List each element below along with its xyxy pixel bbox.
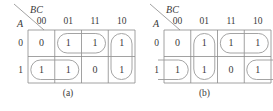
kmap-a-col-header-00: 00	[28, 15, 55, 27]
kmap-a-cell-r1c2: 0	[82, 57, 109, 84]
kmap-a-cell-r0c2: 1	[82, 30, 109, 57]
kmap-b-cell-r0c1: 1	[191, 30, 218, 57]
kmap-a-col-header-01: 01	[55, 15, 82, 27]
kmap-b-row-header-0: 0	[150, 30, 163, 56]
kmap-a-bc-label: BC	[30, 4, 43, 15]
kmap-b-cell-r1c1: 1	[191, 57, 218, 84]
karnaugh-map-figure: BC A 00 01 11 10 0 1 0 1	[0, 0, 273, 111]
kmap-b-cell-r0c0: 0	[164, 30, 191, 57]
kmap-a-col-header-11: 11	[82, 15, 109, 27]
kmap-b-cell-r0c2: 1	[218, 30, 245, 57]
kmap-a-row-header-0: 0	[14, 30, 27, 56]
kmap-b-bc-label: BC	[166, 4, 179, 15]
kmap-b-cell-r1c2: 0	[218, 57, 245, 84]
kmap-b-grid: 0 1 1 1 1 1 0 1	[164, 30, 271, 83]
kmap-b-a-label: A	[153, 18, 159, 29]
kmap-a: BC A 00 01 11 10 0 1 0 1	[0, 0, 136, 111]
kmap-b-caption: (b)	[136, 88, 273, 98]
kmap-b-row-header-1: 1	[150, 57, 163, 83]
kmap-a-cell-r1c3: 1	[108, 57, 135, 84]
kmap-b-cell-r0c3: 1	[244, 30, 271, 57]
kmap-b-col-header-10: 10	[244, 15, 271, 27]
kmap-a-grid: 0 1 1 1 1 1 0 1	[28, 30, 135, 83]
kmap-a-cell-r0c3: 1	[108, 30, 135, 57]
kmap-b-col-header-11: 11	[218, 15, 245, 27]
kmap-a-a-label: A	[17, 18, 23, 29]
kmap-a-cell-r0c1: 1	[55, 30, 82, 57]
kmap-a-cell-r0c0: 0	[28, 30, 55, 57]
kmap-b: BC A 00 01 11 10 0 1 0 1	[136, 0, 273, 111]
kmap-b-cell-r1c0: 1	[164, 57, 191, 84]
kmap-b-cell-r1c3: 1	[244, 57, 271, 84]
kmap-a-row-header-1: 1	[14, 57, 27, 83]
kmap-a-cell-r1c1: 1	[55, 57, 82, 84]
kmap-b-col-header-00: 00	[164, 15, 191, 27]
kmap-a-cell-r1c0: 1	[28, 57, 55, 84]
kmap-a-caption: (a)	[0, 88, 136, 98]
kmap-a-col-header-10: 10	[108, 15, 135, 27]
kmap-b-col-header-01: 01	[191, 15, 218, 27]
